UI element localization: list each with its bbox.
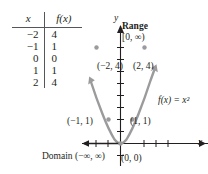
table: x f(x) −2 4 −1 1 0 0 1 1	[12, 12, 82, 88]
function-equation-label: f(x) = x²	[158, 96, 189, 106]
cell-fx: 4	[44, 28, 82, 41]
cell-x: 0	[12, 52, 44, 64]
cell-x: −2	[12, 28, 44, 41]
point-label-neg2-4: (−2, 4)	[97, 62, 123, 72]
table-body: −2 4 −1 1 0 0 1 1 2 4	[12, 28, 82, 89]
cell-fx: 0	[44, 52, 82, 64]
value-table: x f(x) −2 4 −1 1 0 0 1 1	[12, 12, 82, 88]
domain-label: Domain (−∞, ∞)	[42, 152, 105, 162]
cell-x: −1	[12, 40, 44, 52]
point-marker	[118, 141, 122, 145]
y-axis-label: y	[114, 14, 118, 24]
table-row: 1 1	[12, 64, 82, 76]
cell-x: 2	[12, 76, 44, 88]
point-marker	[106, 117, 110, 121]
point-label-1-1: (1, 1)	[130, 117, 151, 127]
range-label: Range	[122, 22, 148, 32]
cell-fx: 4	[44, 76, 82, 88]
cell-x: 1	[12, 64, 44, 76]
point-marker	[142, 45, 146, 49]
column-header-x: x	[12, 12, 44, 28]
table-header-row: x f(x)	[12, 12, 82, 28]
table-row: −2 4	[12, 28, 82, 41]
function-curve	[91, 68, 156, 144]
domain-arrow-head-icon	[82, 140, 89, 147]
point-label-neg1-1: (−1, 1)	[67, 117, 93, 127]
table-row: −1 1	[12, 40, 82, 52]
range-interval-label: [0, ∞)	[122, 33, 145, 43]
point-label-0-0: (0, 0)	[121, 154, 142, 164]
table-row: 2 4	[12, 76, 82, 88]
figure-root: x f(x) −2 4 −1 1 0 0 1 1	[0, 0, 208, 174]
column-header-fx: f(x)	[44, 12, 82, 28]
x-axis-label: x	[198, 138, 202, 148]
domain-arrow	[82, 140, 120, 147]
point-label-2-4: (2, 4)	[133, 62, 154, 72]
point-marker	[94, 45, 98, 49]
cell-fx: 1	[44, 64, 82, 76]
cell-fx: 1	[44, 40, 82, 52]
table-row: 0 0	[12, 52, 82, 64]
table-head: x f(x)	[12, 12, 82, 28]
